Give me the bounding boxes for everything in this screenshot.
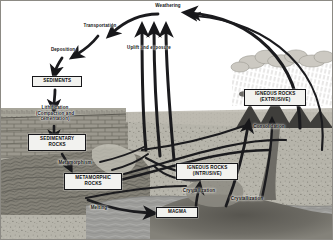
label-weathering: Weathering [151,3,185,9]
label-crystallization-intrusive: Crystallization [178,188,220,194]
box-sedimentary-rocks[interactable]: SEDIMENTARY ROCKS [28,134,86,151]
label-metamorphism: Metamorphism [52,160,98,166]
label-lithification: Lithification (Compaction and cementatio… [28,105,82,122]
box-magma[interactable]: MAGMA [156,207,198,218]
label-melting: Melting [86,205,112,211]
label-uplift-and-exposure: Uplift and exposure [118,45,180,51]
box-sediments[interactable]: SEDIMENTS [32,76,82,87]
box-metamorphic-rocks[interactable]: METAMORPHIC ROCKS [64,173,122,190]
label-transportation: Transportation [78,23,122,29]
label-crystallization-deep: Crystallization [226,196,268,202]
label-deposition: Deposition [44,47,82,53]
box-igneous-rocks-extrusive[interactable]: IGNEOUS ROCKS (EXTRUSIVE) [244,89,306,106]
label-consolidation: Consolidation [247,124,291,130]
box-igneous-rocks-intrusive[interactable]: IGNEOUS ROCKS (INTRUSIVE) [176,163,238,180]
rock-cycle-diagram: Transportation Deposition Weathering Upl… [0,0,333,240]
